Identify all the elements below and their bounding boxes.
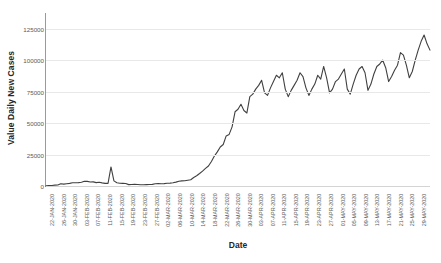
x-tick-label: 22-JAN-2020 [46,188,58,234]
x-tick-label-text: 19-FEB-2020 [130,194,136,226]
x-tick-label: 03-APR-2020 [255,188,267,234]
x-tick-label-text: 15-FEB-2020 [119,194,125,226]
x-tick-label: 11-FEB-2020 [104,188,116,234]
y-tick-label: 0 [16,183,44,190]
x-tick-label-text: 13-MAY-2020 [375,194,381,226]
x-tick-label: 26-MAR-2020 [232,188,244,234]
x-tick-label-text: 18-MAR-2020 [212,193,218,227]
x-tick-label: 29-MAY-2020 [418,188,430,234]
x-tick-label-text: 10-MAR-2020 [188,193,194,227]
x-tick-label: 27-APR-2020 [325,188,337,234]
x-tick-label: 07-FEB-2020 [93,188,105,234]
y-axis-tick-labels: 0250005000075000100000125000 [16,13,44,186]
x-tick-label: 19-APR-2020 [302,188,314,234]
x-tick-label-text: 14-MAR-2020 [200,193,206,227]
x-tick-label-text: 30-MAR-2020 [247,193,253,227]
x-tick-label-text: 29-MAY-2020 [421,194,427,226]
x-tick-label: 15-FEB-2020 [116,188,128,234]
x-tick-label: 25-MAY-2020 [407,188,419,234]
y-tick-label: 125000 [16,25,44,32]
x-tick-label-text: 01-MAY-2020 [340,194,346,226]
x-tick-label: 07-APR-2020 [267,188,279,234]
gridline [46,92,430,93]
x-tick-label: 19-FEB-2020 [127,188,139,234]
gridline [46,123,430,124]
x-tick-label-text: 17-MAY-2020 [386,194,392,226]
y-tick-label: 25000 [16,151,44,158]
x-tick-label: 02-MAR-2020 [162,188,174,234]
y-tick-label: 100000 [16,57,44,64]
x-tick-label-text: 15-APR-2020 [293,194,299,227]
x-tick-label-text: 25-MAY-2020 [410,194,416,226]
x-tick-label-text: 27-FEB-2020 [154,194,160,226]
x-tick-label: 30-MAR-2020 [244,188,256,234]
x-tick-label-text: 22-JAN-2020 [49,194,55,226]
x-axis-title: Date [46,240,430,250]
x-tick-label-text: 23-APR-2020 [316,194,322,227]
x-tick-label-text: 30-JAN-2020 [72,194,78,226]
x-tick-label: 15-APR-2020 [290,188,302,234]
x-tick-label-text: 19-APR-2020 [305,194,311,227]
x-tick-label: 01-MAY-2020 [337,188,349,234]
gridline [46,155,430,156]
chart-container: Value Daily New Cases 025000500007500010… [0,0,441,263]
x-tick-label: 06-MAR-2020 [174,188,186,234]
x-tick-label: 23-APR-2020 [314,188,326,234]
x-tick-label-text: 09-MAY-2020 [363,194,369,226]
x-tick-label: 18-MAR-2020 [209,188,221,234]
x-tick-label-text: 22-MAR-2020 [223,193,229,227]
x-tick-label: 13-MAY-2020 [372,188,384,234]
x-tick-label-text: 21-MAY-2020 [398,194,404,226]
x-tick-label-text: 27-APR-2020 [328,194,334,227]
y-tick-label: 75000 [16,88,44,95]
x-tick-label: 11-APR-2020 [279,188,291,234]
series-line-daily-new-cases [46,13,430,186]
x-tick-label-text: 07-APR-2020 [270,194,276,227]
x-tick-label-text: 26-MAR-2020 [235,193,241,227]
x-tick-label: 23-FEB-2020 [139,188,151,234]
x-tick-label-text: 26-JAN-2020 [60,194,66,226]
x-tick-label-text: 11-FEB-2020 [107,194,113,226]
x-tick-label: 30-JAN-2020 [69,188,81,234]
x-tick-label-text: 06-MAR-2020 [177,193,183,227]
x-tick-label: 22-MAR-2020 [221,188,233,234]
gridline [46,186,430,187]
x-tick-label-text: 23-FEB-2020 [142,194,148,226]
x-tick-label-text: 07-FEB-2020 [95,194,101,226]
x-tick-label: 05-MAY-2020 [349,188,361,234]
gridline [46,29,430,30]
x-tick-label-text: 02-MAR-2020 [165,193,171,227]
x-tick-label: 10-MAR-2020 [186,188,198,234]
x-tick-label: 17-MAY-2020 [383,188,395,234]
x-tick-label: 21-MAY-2020 [395,188,407,234]
y-tick-label: 50000 [16,120,44,127]
x-tick-label: 09-MAY-2020 [360,188,372,234]
x-tick-label-text: 03-APR-2020 [258,194,264,227]
gridline [46,60,430,61]
x-tick-label-text: 03-FEB-2020 [84,194,90,226]
x-tick-label-text: 11-APR-2020 [282,194,288,226]
plot-area [46,13,430,186]
x-tick-label: 03-FEB-2020 [81,188,93,234]
x-tick-label-text: 05-MAY-2020 [351,194,357,226]
x-tick-label: 14-MAR-2020 [197,188,209,234]
y-axis-title-text: Value Daily New Cases [6,51,16,145]
x-axis-tick-labels: 22-JAN-202026-JAN-202030-JAN-202003-FEB-… [46,188,430,236]
x-tick-label: 26-JAN-2020 [58,188,70,234]
x-tick-label: 27-FEB-2020 [151,188,163,234]
x-axis-title-text: Date [229,240,247,250]
